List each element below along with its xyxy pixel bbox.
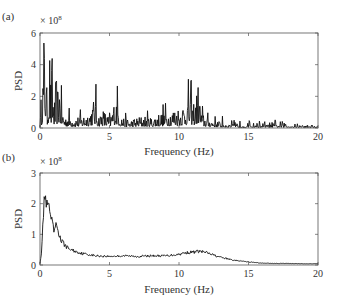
ytick-label: 2 xyxy=(31,91,36,102)
ytick-label: 1 xyxy=(31,229,36,240)
panel-b-exponent-power: 8 xyxy=(58,155,62,163)
panel-a-exponent: × 108 xyxy=(40,14,62,26)
ytick-label: 0 xyxy=(31,260,36,271)
xtick-label: 10 xyxy=(174,268,184,279)
xtick-label: 5 xyxy=(107,131,112,142)
ytick-label: 3 xyxy=(31,168,36,179)
panel-b-psd-line xyxy=(40,196,318,264)
panel-b-xlabel: Frequency (Hz) xyxy=(144,283,214,296)
panel-a-label: (a) xyxy=(2,10,15,23)
xtick-label: 15 xyxy=(244,131,254,142)
panel-a-exponent-power: 8 xyxy=(58,14,62,22)
panel-b-exponent-base: × 10 xyxy=(40,156,58,167)
panel-b-chart: (b) × 108 PSD Frequency (Hz) 0123 051015… xyxy=(2,151,323,296)
panel-b-label: (b) xyxy=(2,151,15,164)
panel-b-exponent: × 108 xyxy=(40,155,62,167)
psd-figure: (a) × 108 PSD Frequency (Hz) 0246 051015… xyxy=(0,0,339,306)
panel-b-axes-box xyxy=(40,173,318,265)
panel-a-ylabel: PSD xyxy=(12,71,24,91)
xtick-label: 20 xyxy=(313,131,323,142)
panel-a-chart: (a) × 108 PSD Frequency (Hz) 0246 051015… xyxy=(2,10,323,158)
xtick-label: 5 xyxy=(107,268,112,279)
xtick-label: 0 xyxy=(38,131,43,142)
panel-a-psd-line xyxy=(40,43,318,128)
ytick-label: 0 xyxy=(31,123,36,134)
ytick-label: 4 xyxy=(31,59,36,70)
xtick-label: 10 xyxy=(174,131,184,142)
panel-a-exponent-base: × 10 xyxy=(40,15,58,26)
xtick-label: 20 xyxy=(313,268,323,279)
panel-a-xlabel: Frequency (Hz) xyxy=(144,145,214,158)
xtick-label: 15 xyxy=(244,268,254,279)
panel-a-axes-box xyxy=(40,33,318,128)
xtick-label: 0 xyxy=(38,268,43,279)
ytick-label: 2 xyxy=(31,198,36,209)
panel-b-ylabel: PSD xyxy=(12,209,24,229)
ytick-label: 6 xyxy=(31,28,36,39)
